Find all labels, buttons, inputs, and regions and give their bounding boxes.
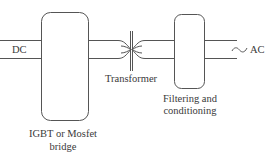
bridge-label-line1: IGBT or Mosfet (22, 128, 104, 140)
ac-label: AC (250, 44, 265, 56)
bridge-block (42, 13, 89, 121)
sine-wave-icon (232, 48, 247, 52)
bridge-label-line2: bridge (22, 141, 104, 153)
filter-label-line2: conditioning (160, 105, 220, 117)
transformer-label: Transformer (105, 73, 157, 85)
filter-block (175, 15, 205, 89)
dc-label: DC (12, 44, 27, 56)
filter-label-line1: Filtering and (160, 93, 220, 105)
transformer-icon (118, 31, 145, 71)
